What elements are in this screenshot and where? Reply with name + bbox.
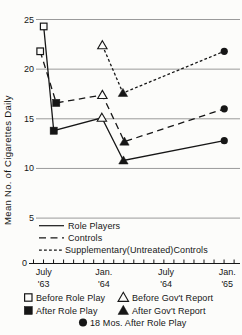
- filled-square-marker: [53, 99, 60, 106]
- marker-legend-label-open-square: Before Role Play: [36, 293, 106, 303]
- x-label-month: July: [158, 267, 175, 277]
- legend-label-long-dash: Controls: [68, 233, 103, 243]
- line-style-legend: Role PlayersControlsSupplementary(Untrea…: [39, 221, 208, 255]
- y-tick-label-20: 20: [24, 64, 34, 74]
- filled-circle-marker: [79, 318, 87, 326]
- open-triangle-marker: [98, 41, 107, 49]
- x-label-month: July: [36, 267, 53, 277]
- filled-square-marker: [24, 306, 32, 314]
- open-triangle-marker: [118, 292, 129, 301]
- marker-legend-label-filled-triangle: After Gov't Report: [132, 306, 206, 316]
- marker-legend: Before Role PlayAfter Role PlayBefore Go…: [24, 292, 213, 328]
- filled-triangle-marker: [118, 88, 127, 96]
- marker-legend-label-filled-circle: 18 Mos. After Role Play: [90, 318, 187, 328]
- open-triangle-marker: [98, 90, 107, 98]
- x-label-year: '64: [98, 279, 110, 289]
- open-square-marker: [40, 23, 47, 30]
- figure: 252015105 Mean No. of Cigarettes Daily R…: [0, 0, 242, 335]
- x-axis-origin-label: 0: [22, 258, 27, 268]
- series-line-controls: [40, 51, 224, 141]
- open-square-marker: [25, 294, 32, 301]
- x-label-month: Jan.: [219, 267, 236, 277]
- filled-circle-marker: [221, 48, 228, 55]
- x-axis: [29, 260, 240, 264]
- y-tick-label-25: 25: [24, 15, 34, 25]
- series-line-role-players: [44, 26, 225, 160]
- legend-label-short-dash: Supplementary(Untreated)Controls: [65, 245, 208, 255]
- gridlines: [36, 20, 240, 219]
- open-square-marker: [37, 48, 44, 55]
- chart-svg: 252015105 Mean No. of Cigarettes Daily R…: [0, 0, 242, 335]
- y-tick-label-5: 5: [29, 213, 34, 223]
- y-tick-labels: 252015105: [24, 15, 34, 224]
- filled-triangle-marker: [118, 305, 129, 314]
- y-tick-label-10: 10: [24, 163, 34, 173]
- x-label-month: Jan.: [95, 267, 112, 277]
- data-series: [37, 23, 228, 164]
- y-tick-label-15: 15: [24, 114, 34, 124]
- x-label-year: '64: [160, 279, 172, 289]
- marker-legend-label-open-triangle: Before Gov't Report: [132, 293, 214, 303]
- filled-circle-marker: [221, 137, 228, 144]
- x-tick-labels: July'63Jan.'64July'64Jan.'65: [36, 267, 236, 289]
- marker-legend-label-filled-square: After Role Play: [36, 306, 98, 316]
- filled-square-marker: [50, 127, 57, 134]
- filled-circle-marker: [221, 105, 228, 112]
- legend-label-solid: Role Players: [68, 221, 121, 231]
- x-label-year: '65: [221, 279, 233, 289]
- y-axis-title: Mean No. of Cigarettes Daily: [2, 95, 13, 225]
- open-triangle-marker: [97, 113, 106, 121]
- x-label-year: '63: [38, 279, 50, 289]
